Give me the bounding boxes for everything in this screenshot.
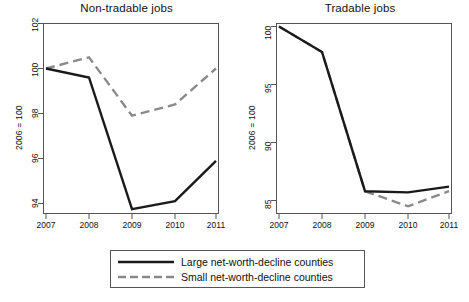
x-tick-label-right-2008: 2008: [309, 220, 335, 230]
x-tick-label-left-2011: 2011: [203, 220, 229, 230]
series-line-large-right: [279, 27, 449, 193]
y-ticks-right: [271, 27, 277, 201]
legend-key-solid-icon: [117, 257, 175, 267]
y-tick-label-right-95: 95: [263, 84, 273, 93]
panel-tradable-jobs: Tradable jobs 2006 = 100: [235, 0, 469, 232]
y-tick-label-left-100: 100: [30, 63, 40, 77]
legend: Large net-worth-decline counties Small n…: [110, 250, 365, 288]
figure: Non-tradable jobs 2006 = 100: [0, 0, 469, 302]
panel-non-tradable-jobs: Non-tradable jobs 2006 = 100: [0, 0, 235, 232]
y-tick-label-left-102: 102: [30, 18, 40, 32]
legend-item-large: Large net-worth-decline counties: [117, 255, 358, 269]
y-tick-label-left-94: 94: [30, 199, 40, 208]
legend-label-large: Large net-worth-decline counties: [181, 256, 333, 268]
x-tick-label-right-2007: 2007: [266, 220, 292, 230]
x-ticks-left: [46, 214, 216, 220]
y-tick-label-right-85: 85: [263, 200, 273, 209]
series-line-small-right: [279, 27, 449, 207]
x-ticks-right: [279, 214, 449, 220]
x-tick-label-left-2010: 2010: [162, 220, 188, 230]
legend-item-small: Small net-worth-decline counties: [117, 270, 358, 284]
legend-label-small: Small net-worth-decline counties: [181, 271, 333, 283]
x-tick-label-right-2011: 2011: [436, 220, 462, 230]
series-line-small-left: [46, 57, 216, 115]
x-tick-label-right-2009: 2009: [352, 220, 378, 230]
x-tick-label-left-2009: 2009: [119, 220, 145, 230]
legend-key-dashed-icon: [117, 272, 175, 282]
x-tick-label-right-2010: 2010: [395, 220, 421, 230]
y-tick-label-right-100: 100: [263, 26, 273, 40]
y-tick-label-left-98: 98: [30, 109, 40, 118]
y-tick-label-left-96: 96: [30, 154, 40, 163]
x-tick-label-left-2007: 2007: [33, 220, 59, 230]
x-tick-label-left-2008: 2008: [76, 220, 102, 230]
y-tick-label-right-90: 90: [263, 142, 273, 151]
